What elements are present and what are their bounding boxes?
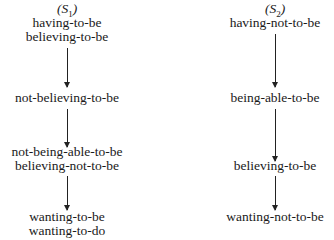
- arrow-down-icon: [67, 176, 68, 210]
- node-s2-2-line-1: being-able-to-be: [195, 91, 334, 105]
- node-s1-1-line-1: having-to-be: [0, 16, 147, 30]
- sequence-s2: (S2) having-not-to-be being-able-to-be b…: [195, 0, 334, 240]
- node-s1-2-line-1: not-believing-to-be: [0, 91, 147, 105]
- arrow-down-icon: [275, 34, 276, 87]
- node-s2-1-line-1: having-not-to-be: [195, 16, 334, 30]
- arrow-down-icon: [275, 176, 276, 210]
- node-s1-4-line-1: wanting-to-be: [0, 210, 147, 224]
- sequence-s1: (S1) having-to-be believing-to-be not-be…: [0, 0, 147, 240]
- arrow-down-icon: [67, 109, 68, 147]
- arrow-down-icon: [67, 48, 68, 87]
- arrow-down-icon: [275, 109, 276, 161]
- node-s2-4-line-1: wanting-not-to-be: [195, 210, 334, 224]
- node-s1-1-line-2: believing-to-be: [0, 30, 147, 44]
- node-s1-3-line-1: not-being-able-to-be: [0, 145, 147, 159]
- node-s1-4-line-2: wanting-to-do: [0, 224, 147, 238]
- node-s1-3-line-2: believing-not-to-be: [0, 159, 147, 173]
- node-s2-3-line-1: believing-to-be: [195, 159, 334, 173]
